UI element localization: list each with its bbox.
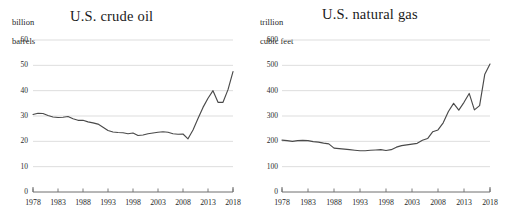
axis-crude-oil: [33, 187, 233, 192]
y-tick-label: 0: [256, 187, 278, 196]
y-tick-label: 500: [256, 60, 278, 69]
chart-panel-natural-gas: trillion cubic feet U.S. natural gas 010…: [252, 0, 511, 223]
y-tick-label: 40: [6, 86, 28, 95]
gridlines-crude-oil: [33, 40, 233, 167]
y-tick-label: 10: [6, 162, 28, 171]
axis-natural-gas: [282, 187, 490, 192]
y-tick-label: 600: [256, 35, 278, 44]
plot-area-crude-oil: [0, 0, 252, 223]
plot-svg-natural-gas: [252, 0, 511, 223]
y-tick-label: 400: [256, 86, 278, 95]
chart-panel-crude-oil: billion barrels U.S. crude oil 010203040…: [0, 0, 252, 223]
gridlines-natural-gas: [282, 40, 490, 167]
x-tick-label: 2018: [218, 198, 248, 207]
x-tick-label: 2018: [475, 198, 505, 207]
y-tick-label: 300: [256, 111, 278, 120]
figure-canvas: billion barrels U.S. crude oil 010203040…: [0, 0, 511, 223]
y-tick-label: 30: [6, 111, 28, 120]
data-line-crude-oil: [33, 72, 233, 139]
y-tick-label: 50: [6, 60, 28, 69]
y-tick-label: 0: [6, 187, 28, 196]
y-tick-label: 100: [256, 162, 278, 171]
data-line-natural-gas: [282, 64, 490, 151]
y-tick-label: 60: [6, 35, 28, 44]
y-tick-label: 20: [6, 136, 28, 145]
y-tick-label: 200: [256, 136, 278, 145]
plot-svg-crude-oil: [0, 0, 252, 223]
plot-area-natural-gas: [252, 0, 511, 223]
